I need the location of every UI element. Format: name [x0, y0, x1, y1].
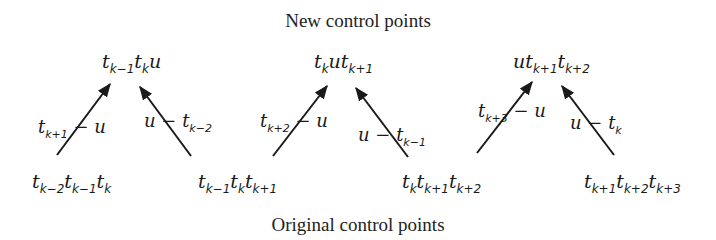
- original-point-3: tktk+1tk+2: [402, 172, 481, 191]
- original-point-1: tk−2tk−1tk: [32, 172, 111, 191]
- new-point-3: utk+1tk+2: [513, 52, 590, 71]
- weight-label-1: tk+1 − u: [38, 118, 106, 136]
- new-point-1: tk−1tku: [102, 52, 161, 71]
- weight-label-6: u − tk: [570, 114, 622, 132]
- new-point-2: tkutk+1: [314, 52, 373, 71]
- arrow-4: [356, 88, 408, 157]
- weight-label-2: u − tk−2: [144, 112, 212, 130]
- original-point-2: tk−1tktk+1: [198, 172, 277, 191]
- weight-label-3: tk+2 − u: [260, 112, 328, 130]
- weight-label-4: u − tk−1: [358, 126, 426, 144]
- weight-label-5: tk+3 − u: [478, 102, 546, 120]
- original-point-4: tk+1tk+2tk+3: [584, 172, 681, 191]
